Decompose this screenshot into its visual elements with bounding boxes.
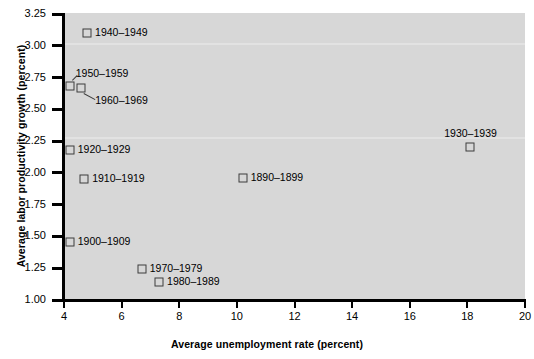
y-tick-mark [52, 13, 65, 16]
data-point-label: 1970–1979 [150, 263, 203, 274]
data-point-label: 1900–1909 [78, 236, 131, 247]
x-tick-mark [63, 299, 65, 308]
data-point-label: 1950–1959 [76, 68, 129, 79]
y-tick-label: 1.50 [25, 230, 46, 241]
x-tick-mark [351, 299, 353, 308]
data-point-label: 1960–1969 [95, 95, 148, 106]
y-tick-mark [52, 171, 65, 174]
x-tick-mark [409, 299, 411, 308]
x-tick-mark [466, 299, 468, 308]
data-point-marker [238, 173, 247, 182]
data-point-label: 1910–1919 [92, 173, 145, 184]
data-point-marker [65, 82, 74, 91]
plot-band [64, 43, 525, 45]
x-tick-label: 12 [288, 311, 300, 322]
x-tick-label: 16 [404, 311, 416, 322]
y-tick-mark [52, 140, 65, 143]
y-tick-mark [52, 235, 65, 238]
x-tick-label: 4 [61, 311, 67, 322]
x-tick-label: 10 [231, 311, 243, 322]
data-point-label: 1930–1939 [444, 128, 497, 139]
x-tick-mark [524, 299, 526, 308]
y-tick-label: 2.25 [25, 135, 46, 146]
data-point-label: 1890–1899 [251, 172, 304, 183]
x-tick-label: 6 [119, 311, 125, 322]
data-point-marker [65, 237, 74, 246]
data-point-marker [83, 29, 92, 38]
y-tick-label: 3.25 [25, 8, 46, 19]
data-point-label: 1980–1989 [167, 276, 220, 287]
x-tick-label: 18 [461, 311, 473, 322]
y-tick-mark [52, 203, 65, 206]
y-tick-mark [52, 76, 65, 79]
y-tick-label: 2.75 [25, 72, 46, 83]
data-point-marker [155, 278, 164, 287]
data-point-marker [466, 143, 475, 152]
y-tick-mark [52, 267, 65, 270]
y-tick-label: 2.50 [25, 103, 46, 114]
x-tick-mark [121, 299, 123, 308]
y-tick-label: 3.00 [25, 40, 46, 51]
x-tick-label: 20 [519, 311, 531, 322]
data-point-marker [77, 83, 86, 92]
y-tick-label: 1.00 [25, 294, 46, 305]
data-point-marker [80, 175, 89, 184]
y-tick-label: 1.75 [25, 199, 46, 210]
y-axis-spine [62, 13, 65, 302]
y-tick-label: 2.00 [25, 167, 46, 178]
x-tick-mark [178, 299, 180, 308]
data-point-marker [65, 146, 74, 155]
data-point-marker [137, 265, 146, 274]
x-tick-label: 14 [346, 311, 358, 322]
plot-area [64, 13, 525, 301]
data-point-label: 1940–1949 [95, 27, 148, 38]
data-point-label: 1920–1929 [78, 144, 131, 155]
x-tick-mark [294, 299, 296, 308]
y-tick-mark [52, 108, 65, 111]
y-axis-title: Average labor productivity growth (perce… [15, 6, 27, 306]
x-axis-title: Average unemployment rate (percent) [0, 338, 534, 350]
x-tick-label: 8 [176, 311, 182, 322]
y-tick-label: 1.25 [25, 262, 46, 273]
x-tick-mark [236, 299, 238, 308]
y-tick-mark [52, 44, 65, 47]
scatter-chart-figure: 1.001.251.501.752.002.252.502.753.003.25… [0, 0, 534, 359]
